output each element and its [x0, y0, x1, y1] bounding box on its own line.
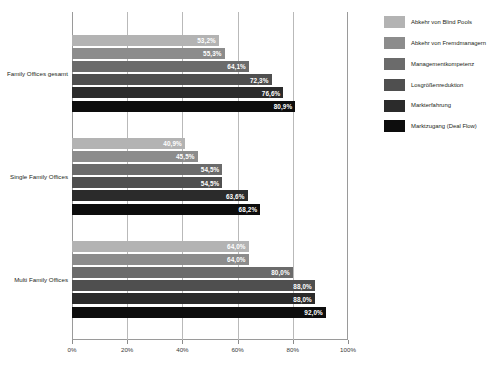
bar-row: 40,9% [72, 138, 348, 149]
bar: 54,5% [72, 177, 222, 188]
category-label: Multi Family Offices [14, 276, 68, 283]
category-label: Family Offices gesamt [7, 70, 68, 77]
bar-row: 80,0% [72, 267, 348, 278]
bar: 45,5% [72, 151, 198, 162]
bar-row: 45,5% [72, 151, 348, 162]
bar: 64,0% [72, 241, 249, 252]
bar-value-label: 72,3% [250, 76, 269, 83]
bar-value-label: 64,0% [227, 256, 246, 263]
category-axis: Family Offices gesamtSingle Family Offic… [0, 0, 68, 372]
bar: 80,9% [72, 101, 295, 112]
bar-row: 80,9% [72, 101, 348, 112]
bar: 64,0% [72, 254, 249, 265]
bar: 68,2% [72, 204, 260, 215]
bar-row: 53,2% [72, 35, 348, 46]
x-axis-tick-label: 100% [340, 346, 356, 353]
legend-label: Abkehr von Fremdmanagern [411, 40, 486, 46]
bar-row: 55,3% [72, 48, 348, 59]
bar: 76,6% [72, 87, 283, 98]
bar-row: 72,3% [72, 74, 348, 85]
bar-value-label: 40,9% [163, 140, 182, 147]
legend-item: Abkehr von Fremdmanagern [384, 33, 494, 54]
legend-label: Losgrößenreduktion [411, 82, 463, 88]
x-axis-tick-label: 20% [121, 346, 133, 353]
chart-legend: Abkehr von Blind PoolsAbkehr von Fremdma… [384, 12, 494, 137]
bar-value-label: 53,2% [197, 37, 216, 44]
bar: 53,2% [72, 35, 219, 46]
category-label: Single Family Offices [10, 173, 68, 180]
legend-swatch [384, 120, 405, 132]
bar-value-label: 80,9% [274, 103, 293, 110]
bar-value-label: 64,0% [227, 243, 246, 250]
legend-item: Marktzugang (Deal Flow) [384, 116, 494, 137]
x-axis-tick [348, 340, 349, 344]
bar-value-label: 68,2% [239, 206, 258, 213]
bar-value-label: 76,6% [262, 89, 281, 96]
bar-value-label: 64,1% [227, 63, 246, 70]
bar-value-label: 80,0% [271, 269, 290, 276]
bar-value-label: 88,0% [293, 282, 312, 289]
bar: 72,3% [72, 74, 272, 85]
legend-swatch [384, 37, 405, 49]
bar-row: 92,0% [72, 307, 348, 318]
legend-label: Markterfahrung [411, 102, 451, 108]
bar-row: 64,0% [72, 254, 348, 265]
bar: 64,1% [72, 61, 249, 72]
bar: 88,0% [72, 293, 315, 304]
bar-row: 88,0% [72, 293, 348, 304]
legend-label: Marktzugang (Deal Flow) [411, 123, 477, 129]
x-axis-tick [127, 340, 128, 344]
legend-swatch [384, 79, 405, 91]
x-axis-tick-label: 40% [176, 346, 188, 353]
x-axis-tick [238, 340, 239, 344]
bar: 92,0% [72, 307, 326, 318]
x-axis-tick [72, 340, 73, 344]
bar: 88,0% [72, 280, 315, 291]
bar: 40,9% [72, 138, 185, 149]
legend-swatch [384, 58, 405, 70]
legend-item: Managementkompetenz [384, 54, 494, 75]
bar-value-label: 54,5% [201, 179, 220, 186]
bar-value-label: 54,5% [201, 166, 220, 173]
x-axis-tick [182, 340, 183, 344]
x-axis-tick-label: 60% [231, 346, 243, 353]
bar-row: 76,6% [72, 87, 348, 98]
legend-item: Markterfahrung [384, 95, 494, 116]
bar: 54,5% [72, 164, 222, 175]
bar-row: 68,2% [72, 204, 348, 215]
plot-area: 53,2%55,3%64,1%72,3%76,6%80,9%40,9%45,5%… [72, 12, 348, 340]
legend-item: Losgrößenreduktion [384, 74, 494, 95]
bar: 80,0% [72, 267, 293, 278]
x-axis-tick-label: 80% [287, 346, 299, 353]
bar-row: 63,6% [72, 190, 348, 201]
bar-value-label: 88,0% [293, 295, 312, 302]
chart-figure: Family Offices gesamtSingle Family Offic… [0, 0, 494, 372]
x-axis-tick [293, 340, 294, 344]
bar: 55,3% [72, 48, 225, 59]
bar-row: 54,5% [72, 164, 348, 175]
bar-row: 54,5% [72, 177, 348, 188]
bar-row: 88,0% [72, 280, 348, 291]
bar-value-label: 92,0% [304, 309, 323, 316]
x-axis-tick-label: 0% [68, 346, 77, 353]
bar-value-label: 45,5% [176, 153, 195, 160]
legend-label: Abkehr von Blind Pools [411, 19, 472, 25]
bar-row: 64,1% [72, 61, 348, 72]
legend-swatch [384, 100, 405, 112]
bar-row: 64,0% [72, 241, 348, 252]
bar-value-label: 55,3% [203, 50, 222, 57]
bar: 63,6% [72, 190, 248, 201]
legend-item: Abkehr von Blind Pools [384, 12, 494, 33]
bar-value-label: 63,6% [226, 192, 245, 199]
legend-label: Managementkompetenz [411, 61, 474, 67]
legend-swatch [384, 16, 405, 28]
